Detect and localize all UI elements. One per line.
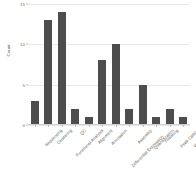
bar: [98, 60, 106, 125]
x-tick-mark: [62, 125, 63, 127]
plot-area: 051015: [28, 4, 190, 125]
y-axis-title: Count: [6, 31, 11, 71]
bar-series: [28, 4, 190, 125]
x-tick-mark: [89, 125, 90, 127]
bar: [139, 85, 147, 125]
bar: [125, 109, 133, 125]
bar: [166, 109, 174, 125]
y-tick-label: 5: [23, 82, 25, 87]
y-tick-label: 15: [20, 2, 25, 7]
y-tick-label: 0: [23, 123, 25, 128]
bar: [44, 20, 52, 125]
x-tick-mark: [143, 125, 144, 127]
x-tick-label: QC: [79, 128, 87, 136]
x-tick-mark: [102, 125, 103, 127]
x-tick-mark: [116, 125, 117, 127]
bar: [71, 109, 79, 125]
bar: [31, 101, 39, 125]
x-tick-mark: [75, 125, 76, 127]
x-tick-mark: [170, 125, 171, 127]
x-tick-mark: [129, 125, 130, 127]
x-tick-mark: [156, 125, 157, 127]
x-tick-mark: [48, 125, 49, 127]
y-tick-label: 10: [20, 42, 25, 47]
x-axis-labels: SequencingClusteringFunctional AnalysisQ…: [28, 125, 190, 179]
x-tick-label: Trimming: [163, 128, 179, 144]
x-tick-mark: [35, 125, 36, 127]
bar-chart: Count 051015 SequencingClusteringFunctio…: [0, 0, 196, 179]
bar: [58, 12, 66, 125]
bar: [112, 44, 120, 125]
x-tick-mark: [183, 125, 184, 127]
